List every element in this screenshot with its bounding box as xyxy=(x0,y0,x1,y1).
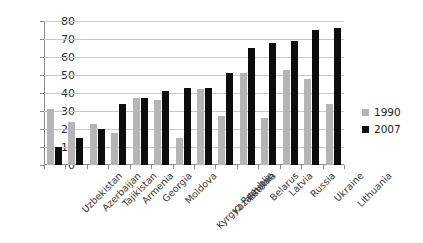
bar-2007-armenia[interactable] xyxy=(119,104,126,165)
x-tick-mark xyxy=(173,165,174,169)
bar-1990-belarus[interactable] xyxy=(240,73,247,165)
bar-2007-belarus[interactable] xyxy=(248,48,255,165)
x-tick-mark xyxy=(323,165,324,169)
bar-1990-ukraine[interactable] xyxy=(304,79,311,165)
legend-item-2007[interactable]: 2007 xyxy=(362,121,401,138)
bar-2007-kyrgyz-republic[interactable] xyxy=(184,88,191,165)
x-tick-mark xyxy=(258,165,259,169)
bar-2007-russia[interactable] xyxy=(291,41,298,165)
bar-group xyxy=(323,21,344,165)
bar-group xyxy=(65,21,86,165)
bar-group xyxy=(237,21,258,165)
x-tick-mark xyxy=(215,165,216,169)
bar-group xyxy=(258,21,279,165)
bar-2007-tajikistan[interactable] xyxy=(98,129,105,165)
bar-1990-latvia[interactable] xyxy=(261,118,268,165)
bar-1990-kazakhstan[interactable] xyxy=(197,89,204,165)
bar-group xyxy=(173,21,194,165)
bar-1990-armenia[interactable] xyxy=(111,133,118,165)
x-tick-mark xyxy=(344,165,345,169)
bar-group xyxy=(280,21,301,165)
bar-group xyxy=(130,21,151,165)
bar-1990-russia[interactable] xyxy=(283,70,290,165)
legend-label-1990: 1990 xyxy=(374,107,401,118)
bar-2007-uzbekistan[interactable] xyxy=(55,147,62,165)
x-tick-mark xyxy=(65,165,66,169)
bar-chart: 80 70 60 50 40 30 20 10 0 UzbekistanAzer… xyxy=(0,0,423,243)
bar-1990-lithuania[interactable] xyxy=(326,104,333,165)
legend-swatch-2007 xyxy=(362,126,369,133)
x-tick-mark xyxy=(301,165,302,169)
bar-group xyxy=(301,21,322,165)
bar-2007-lithuania[interactable] xyxy=(334,28,341,165)
bar-2007-azerbaijan[interactable] xyxy=(76,138,83,165)
bar-1990-moldova[interactable] xyxy=(154,100,161,165)
plot-area xyxy=(44,21,344,165)
legend-swatch-1990 xyxy=(362,109,369,116)
bar-2007-moldova[interactable] xyxy=(162,91,169,165)
x-tick-mark xyxy=(130,165,131,169)
bar-group xyxy=(87,21,108,165)
bar-2007-georgia[interactable] xyxy=(141,98,148,165)
bar-group xyxy=(151,21,172,165)
bar-2007-kazakhstan[interactable] xyxy=(205,88,212,165)
bar-2007-ukraine[interactable] xyxy=(312,30,319,165)
bar-1990-azerbaijan[interactable] xyxy=(68,122,75,165)
x-tick-mark xyxy=(151,165,152,169)
bar-2007-estonia[interactable] xyxy=(226,73,233,165)
legend-label-2007: 2007 xyxy=(374,124,401,135)
legend-item-1990[interactable]: 1990 xyxy=(362,104,401,121)
bar-1990-georgia[interactable] xyxy=(133,98,140,165)
bar-1990-tajikistan[interactable] xyxy=(90,124,97,165)
bar-1990-estonia[interactable] xyxy=(218,116,225,165)
legend: 1990 2007 xyxy=(362,104,401,138)
x-tick-mark xyxy=(237,165,238,169)
bar-1990-kyrgyz-republic[interactable] xyxy=(176,138,183,165)
x-tick-mark xyxy=(44,165,45,169)
bar-group xyxy=(44,21,65,165)
bar-2007-latvia[interactable] xyxy=(269,43,276,165)
bar-1990-uzbekistan[interactable] xyxy=(47,109,54,165)
x-tick-mark xyxy=(194,165,195,169)
bar-group xyxy=(215,21,236,165)
x-tick-mark xyxy=(108,165,109,169)
x-tick-mark xyxy=(280,165,281,169)
x-tick-mark xyxy=(87,165,88,169)
bar-group xyxy=(108,21,129,165)
bar-group xyxy=(194,21,215,165)
